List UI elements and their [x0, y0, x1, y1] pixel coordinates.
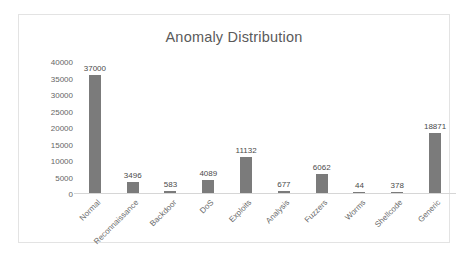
x-label-slot: Worms — [341, 195, 379, 255]
x-axis-tick-label: Analysis — [264, 198, 291, 225]
bar-value-label: 3496 — [124, 171, 142, 180]
bar[interactable] — [391, 192, 403, 194]
bar[interactable] — [202, 180, 214, 193]
bar-slot: 44 — [341, 61, 379, 193]
x-axis-tick-label: Worms — [343, 198, 367, 222]
y-axis-tick-label: 40000 — [37, 59, 73, 67]
bar-value-label: 4089 — [199, 169, 217, 178]
x-label-slot: Backdoor — [152, 195, 190, 255]
x-axis-category-labels: NormalReconnaissanceBackdoorDoSExploitsA… — [76, 195, 454, 255]
bar[interactable] — [164, 191, 176, 193]
x-label-slot: Fuzzers — [303, 195, 341, 255]
bar[interactable] — [240, 157, 252, 193]
x-label-slot: Reconnaissance — [114, 195, 152, 255]
y-axis-tick-labels: 4000035000300002500020000150001000050000 — [37, 59, 73, 199]
x-axis-tick-label: Exploits — [227, 198, 253, 224]
category-axis-line — [74, 193, 456, 194]
bar-slot: 11132 — [227, 61, 265, 193]
bar-value-label: 18871 — [424, 122, 446, 131]
y-axis-tick-label: 15000 — [37, 142, 73, 150]
x-label-slot: Generic — [416, 195, 454, 255]
bar[interactable] — [278, 191, 290, 193]
bar-value-label: 583 — [164, 180, 177, 189]
bar[interactable] — [316, 174, 328, 193]
chart-title: Anomaly Distribution — [19, 29, 449, 45]
x-axis-tick-label: Shellcode — [374, 198, 405, 229]
x-label-slot: Shellcode — [378, 195, 416, 255]
bar-slot: 677 — [265, 61, 303, 193]
bar[interactable] — [127, 182, 139, 193]
bar-value-label: 37000 — [84, 64, 106, 73]
bar[interactable] — [429, 133, 441, 193]
y-axis-tick-label: 10000 — [37, 158, 73, 166]
bar-value-label: 44 — [355, 181, 364, 190]
x-axis-tick-label: Fuzzers — [303, 198, 329, 224]
bar[interactable] — [353, 192, 365, 194]
chart-frame: Anomaly Distribution 4000035000300002500… — [18, 14, 450, 243]
y-axis-tick-label: 25000 — [37, 109, 73, 117]
bar-value-label: 6062 — [313, 163, 331, 172]
bar-slot: 4089 — [189, 61, 227, 193]
y-axis-tick-label: 30000 — [37, 92, 73, 100]
x-label-slot: Exploits — [227, 195, 265, 255]
y-axis-tick-label: 20000 — [37, 125, 73, 133]
bar-slot: 6062 — [303, 61, 341, 193]
bar-slot: 18871 — [416, 61, 454, 193]
bar-slot: 37000 — [76, 61, 114, 193]
bar-value-label: 378 — [391, 181, 404, 190]
bar-slot: 378 — [378, 61, 416, 193]
x-axis-tick-label: DoS — [198, 198, 215, 215]
bar-value-label: 677 — [277, 180, 290, 189]
x-label-slot: DoS — [189, 195, 227, 255]
x-axis-tick-label: Normal — [78, 198, 103, 223]
y-axis-tick-label: 0 — [37, 191, 73, 199]
x-label-slot: Analysis — [265, 195, 303, 255]
y-axis-tick-label: 35000 — [37, 76, 73, 84]
bar-slot: 3496 — [114, 61, 152, 193]
bar-series: 37000349658340891113267760624437818871 — [76, 61, 454, 193]
x-axis-tick-label: Backdoor — [148, 198, 178, 228]
bar-value-label: 11132 — [236, 146, 257, 155]
x-axis-tick-label: Generic — [416, 198, 442, 224]
y-axis-tick-label: 5000 — [37, 175, 73, 183]
bar-slot: 583 — [152, 61, 190, 193]
bar[interactable] — [89, 75, 101, 193]
